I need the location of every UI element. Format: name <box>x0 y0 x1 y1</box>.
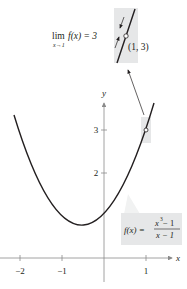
limit-graph: −2 −1 1 3 2 x y (1, 3) lim x→1 f(x) = 3 … <box>0 0 187 289</box>
zoom-pointer-arrow <box>128 70 144 115</box>
limit-lim: lim <box>52 31 65 41</box>
x-tick-label: 1 <box>144 266 149 276</box>
hole-point-label: (1, 3) <box>128 42 149 53</box>
x-axis-label: x <box>175 253 180 263</box>
svg-text:x: x <box>154 218 159 228</box>
formula-lhs: f(x) = <box>124 225 145 235</box>
limit-subscript: x→1 <box>52 42 65 48</box>
limit-expression: f(x) = 3 <box>68 31 97 42</box>
y-tick-label: 3 <box>94 125 99 135</box>
x-tick-label: −1 <box>57 266 67 276</box>
x-tick-label: −2 <box>15 266 25 276</box>
formula-numerator: x 3 − 1 <box>154 216 174 228</box>
svg-text:− 1: − 1 <box>163 218 174 228</box>
hole-marker <box>144 128 148 132</box>
y-axis-label: y <box>101 88 106 98</box>
formula-callout-pointer <box>124 194 140 214</box>
formula-denominator: x − 1 <box>155 230 174 240</box>
y-tick-label: 2 <box>94 168 99 178</box>
inset-hole-marker <box>124 34 128 38</box>
